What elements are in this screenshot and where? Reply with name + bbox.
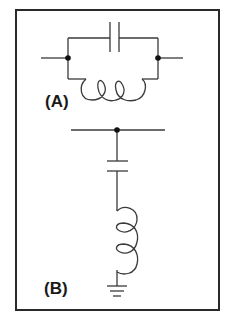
ground-icon	[107, 286, 127, 296]
circuit-b-label: (B)	[44, 279, 68, 298]
circuit-a	[41, 22, 183, 101]
circuit-b-node	[114, 127, 120, 133]
diagram-canvas: (A) (B)	[0, 0, 226, 319]
capacitor-icon	[110, 22, 119, 52]
inductor-icon	[117, 208, 138, 274]
circuit-b	[71, 130, 165, 296]
capacitor-icon	[107, 161, 128, 171]
circuit-a-right-node	[155, 55, 161, 61]
circuit-a-left-node	[65, 55, 71, 61]
inductor-icon	[81, 79, 145, 101]
circuit-a-label: (A)	[45, 92, 69, 111]
